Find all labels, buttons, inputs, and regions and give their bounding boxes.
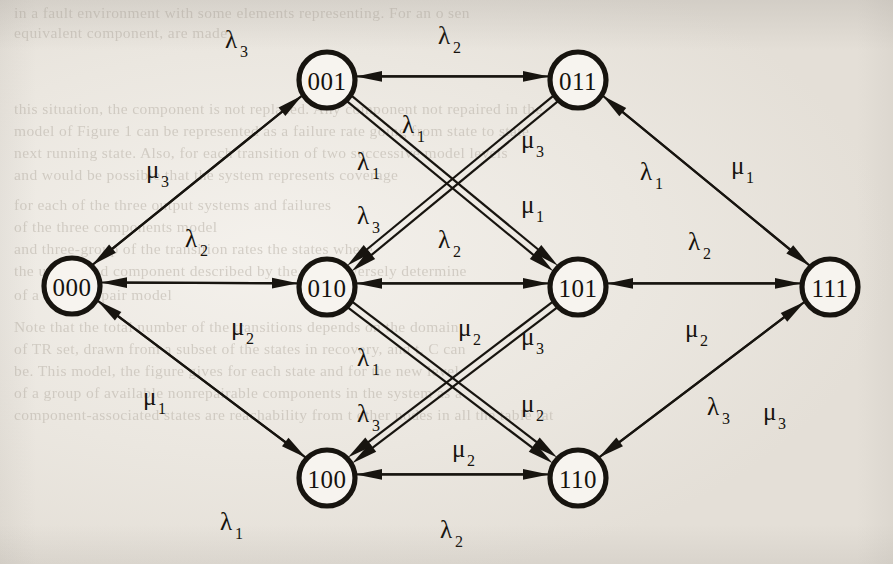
- state-node-001[interactable]: 001: [299, 52, 355, 108]
- rate-label-011-010-μ3: μ3: [521, 126, 544, 160]
- rate-symbol: μ: [521, 191, 534, 218]
- rate-symbol: μ: [521, 126, 534, 153]
- rate-subscript: 3: [778, 415, 786, 432]
- rate-label-001-000-μ3: μ3: [146, 156, 169, 190]
- rate-label-111-011-μ1: μ1: [731, 152, 754, 186]
- rate-label-101-100-μ2: μ2: [521, 390, 544, 424]
- rate-label-110-111-λ3: λ3: [707, 393, 730, 427]
- state-node-110[interactable]: 110: [550, 450, 606, 506]
- edge-011-to-010-μ3-line: [369, 101, 559, 258]
- edge-011-to-010-μ1-line: [364, 95, 554, 252]
- edge-111-to-110-μ3-arrowhead: [599, 438, 623, 458]
- rate-subscript: 2: [536, 407, 544, 424]
- rate-symbol: μ: [146, 156, 159, 183]
- rate-label-000-001-λ3: λ3: [225, 26, 248, 60]
- rate-symbol: μ: [458, 314, 471, 341]
- rate-symbol: μ: [685, 315, 698, 342]
- rate-subscript: 1: [655, 175, 663, 192]
- rate-subscript: 1: [372, 361, 380, 378]
- rate-label-011-010-μ1: μ1: [521, 191, 544, 225]
- state-node-label-011: 011: [559, 68, 597, 95]
- rate-symbol: λ: [357, 202, 369, 229]
- rate-label-001-011-λ2: λ2: [438, 22, 461, 56]
- rate-subscript: 3: [722, 410, 730, 427]
- rate-subscript: 3: [372, 417, 380, 434]
- rate-symbol: μ: [763, 398, 776, 425]
- figure-page: in a fault environment with some element…: [0, 0, 893, 564]
- state-node-010[interactable]: 010: [299, 259, 355, 315]
- state-node-label-111: 111: [811, 275, 848, 302]
- rate-subscript: 2: [455, 533, 463, 550]
- rate-label-110-100-μ2: μ2: [452, 435, 475, 469]
- rate-subscript: 2: [473, 331, 481, 348]
- rate-label-111-110-μ3: μ3: [763, 398, 786, 432]
- rate-symbol: λ: [438, 226, 450, 253]
- rate-subscript: 2: [246, 330, 254, 347]
- state-transition-diagram: 000001010011100101110111 λ3μ3λ2μ2λ1μ1λ2λ…: [0, 0, 893, 564]
- state-node-111[interactable]: 111: [802, 259, 858, 315]
- rate-subscript: 3: [372, 219, 380, 236]
- rate-symbol: μ: [143, 383, 156, 410]
- rate-symbol: λ: [220, 508, 232, 535]
- rate-subscript: 2: [453, 39, 461, 56]
- rate-symbol: λ: [688, 228, 700, 255]
- rate-label-101-111-λ2: λ2: [688, 228, 711, 262]
- rate-symbol: μ: [521, 323, 534, 350]
- rate-symbol: λ: [185, 225, 197, 252]
- rate-subscript: 1: [536, 208, 544, 225]
- rate-label-010-110-λ3: λ3: [357, 400, 380, 434]
- rate-symbol: λ: [402, 111, 414, 138]
- rate-subscript: 1: [746, 169, 754, 186]
- edge-110-to-100-μ2-arrowhead: [356, 469, 382, 480]
- rate-label-010-110-λ1: λ1: [357, 344, 380, 378]
- nodes-layer: 000001010011100101110111: [44, 52, 858, 506]
- rate-symbol: λ: [440, 516, 452, 543]
- rate-label-111-101-μ2: μ2: [685, 315, 708, 349]
- rate-symbol: λ: [357, 148, 369, 175]
- rate-label-010-000-μ2: μ2: [231, 313, 254, 347]
- state-node-011[interactable]: 011: [550, 52, 606, 108]
- rate-subscript: 3: [161, 173, 169, 190]
- rate-symbol: λ: [438, 22, 450, 49]
- rate-label-101-100-μ3: μ3: [521, 323, 544, 357]
- edge-101-to-010-μ2-arrowhead: [356, 278, 382, 289]
- rate-label-100-000-μ1: μ1: [143, 383, 166, 417]
- rate-symbol: λ: [225, 26, 237, 53]
- edge-010-to-000-μ2-line: [123, 283, 299, 284]
- rate-label-101-010-μ2: μ2: [458, 314, 481, 348]
- rate-subscript: 3: [240, 43, 248, 60]
- state-node-label-100: 100: [308, 466, 347, 493]
- rate-symbol: μ: [731, 152, 744, 179]
- state-node-000[interactable]: 000: [44, 258, 100, 314]
- rate-label-010-101-λ2: λ2: [438, 226, 461, 260]
- state-node-100[interactable]: 100: [299, 450, 355, 506]
- rate-symbol: μ: [231, 313, 244, 340]
- rate-label-001-101-λ3: λ3: [357, 202, 380, 236]
- rate-label-000-100-λ1: λ1: [220, 508, 243, 542]
- rate-subscript: 3: [536, 340, 544, 357]
- rate-label-000-010-λ2: λ2: [185, 225, 208, 259]
- state-node-101[interactable]: 101: [550, 259, 606, 315]
- rate-symbol: λ: [357, 400, 369, 427]
- rate-subscript: 1: [235, 525, 243, 542]
- rate-labels-layer: λ3μ3λ2μ2λ1μ1λ2λ1λ1λ3μ3μ1λ1μ1λ2μ2λ1λ3μ3μ2…: [143, 22, 786, 550]
- state-node-label-000: 000: [53, 274, 92, 301]
- edge-010-to-000-μ2-arrowhead: [101, 277, 127, 288]
- rate-subscript: 3: [536, 143, 544, 160]
- edge-100-to-000-μ1-arrowhead: [97, 301, 121, 321]
- rate-label-001-101-λ1: λ1: [357, 148, 380, 182]
- rate-subscript: 2: [703, 245, 711, 262]
- edge-011-to-001-λ1-arrowhead: [356, 71, 382, 82]
- rate-symbol: μ: [452, 435, 465, 462]
- edge-001-to-000-μ3-line: [109, 95, 303, 251]
- rate-subscript: 2: [200, 242, 208, 259]
- rate-subscript: 1: [372, 165, 380, 182]
- rate-symbol: μ: [521, 390, 534, 417]
- rate-label-011-111-λ1: λ1: [640, 158, 663, 192]
- state-node-label-010: 010: [308, 275, 347, 302]
- rate-symbol: λ: [357, 344, 369, 371]
- state-node-label-110: 110: [559, 466, 597, 493]
- rate-subscript: 1: [417, 128, 425, 145]
- rate-label-100-110-λ2: λ2: [440, 516, 463, 550]
- rate-subscript: 2: [700, 332, 708, 349]
